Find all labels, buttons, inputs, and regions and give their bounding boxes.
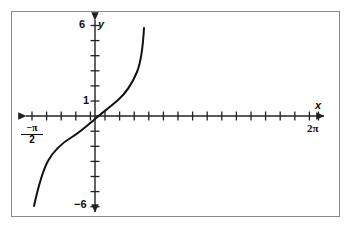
x-tick-label-2pi: 2π [307,123,319,134]
fraction-denominator: 2 [21,135,43,146]
y-tick-label-1: 1 [83,95,89,106]
x-tick-label-neg-pi-over-2: −π 2 [21,123,43,145]
curve-tangent [34,28,144,206]
x-axis [26,112,324,121]
graph-canvas [0,0,351,228]
x-axis-label: x [315,100,321,111]
y-tick-label-neg6: −6 [74,199,87,210]
math-graph-figure: y x 6 1 −6 −π 2 2π [0,0,351,228]
y-tick-label-6: 6 [79,19,85,30]
fraction-numerator: −π [21,123,43,135]
y-axis-label: y [98,19,104,30]
